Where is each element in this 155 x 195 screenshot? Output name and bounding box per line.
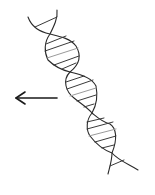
arrow-left-icon <box>16 92 57 104</box>
helix-base-pairs <box>35 17 124 166</box>
helix-strand-a <box>28 17 138 170</box>
helix-strand-b <box>45 10 112 174</box>
dna-sketch <box>0 0 155 195</box>
